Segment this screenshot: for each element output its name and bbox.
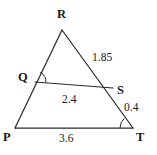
measure-label-ST: 0.4 <box>124 102 138 114</box>
vertex-label-Q: Q <box>18 71 28 84</box>
geometry-diagram: R Q S P T 1.85 2.4 0.4 3.6 <box>0 0 157 155</box>
vertex-label-P: P <box>3 131 11 144</box>
measure-label-QS: 2.4 <box>62 94 76 106</box>
angle-arc-T <box>120 119 124 129</box>
vertex-label-S: S <box>117 84 124 97</box>
measure-label-PT: 3.6 <box>59 133 73 145</box>
vertex-label-T: T <box>136 131 144 144</box>
vertex-label-R: R <box>57 8 66 21</box>
measure-label-RS: 1.85 <box>92 52 112 64</box>
segment-RT <box>62 30 133 128</box>
